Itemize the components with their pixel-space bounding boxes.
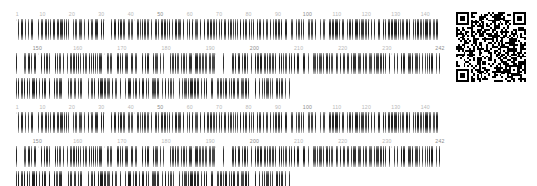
barcode-bar bbox=[120, 112, 122, 133]
barcode-bar bbox=[181, 146, 182, 167]
barcode-bar bbox=[400, 19, 401, 40]
barcode-bar bbox=[259, 171, 260, 186]
barcode-bar bbox=[75, 112, 77, 133]
barcode-bar bbox=[431, 146, 434, 167]
barcode-bar bbox=[192, 112, 193, 133]
barcode-bar bbox=[240, 112, 242, 133]
barcode-bar bbox=[169, 112, 170, 133]
barcode-bar bbox=[289, 146, 290, 167]
barcode-bar bbox=[383, 19, 384, 40]
barcode-bar bbox=[415, 53, 418, 74]
barcode-bar bbox=[27, 171, 28, 186]
barcode-bar bbox=[343, 53, 346, 74]
barcode-bar bbox=[303, 19, 304, 40]
barcode-bar bbox=[114, 19, 116, 40]
barcode-bar bbox=[183, 112, 184, 133]
barcode-bar bbox=[16, 146, 17, 167]
barcode-bar bbox=[267, 53, 268, 74]
barcode-bar bbox=[320, 19, 321, 40]
ruler-labels-bottom: 150160170180190200210220230242 bbox=[16, 137, 440, 146]
barcode-bar bbox=[97, 146, 98, 167]
barcode-bar bbox=[212, 53, 215, 74]
barcode-bar bbox=[413, 19, 414, 40]
barcode-bar bbox=[385, 19, 387, 40]
barcode-bar bbox=[415, 112, 416, 133]
barcode-bar bbox=[279, 146, 280, 167]
ruler-labels-top: 1102030405060708090100110120130140 bbox=[16, 10, 440, 19]
ruler-label: 242 bbox=[435, 44, 444, 53]
barcode-bar bbox=[66, 19, 67, 40]
barcode-bar bbox=[147, 19, 149, 40]
barcode-bar bbox=[216, 19, 217, 40]
barcode-bar bbox=[355, 19, 358, 40]
barcode-bar bbox=[247, 53, 248, 74]
barcode-bar bbox=[283, 53, 284, 74]
barcode-bar bbox=[45, 19, 47, 40]
barcode-bar bbox=[108, 146, 109, 167]
barcode-bar bbox=[147, 146, 150, 167]
barcode-bar bbox=[349, 112, 351, 133]
barcode-bar bbox=[285, 19, 288, 40]
barcode-bar bbox=[228, 112, 229, 133]
barcode-bar bbox=[308, 112, 310, 133]
barcode-bar bbox=[429, 53, 430, 74]
barcode-bar bbox=[253, 19, 254, 40]
barcode-bar bbox=[343, 146, 346, 167]
barcode-bar bbox=[259, 19, 261, 40]
barcode-bar bbox=[336, 146, 337, 167]
barcode-bar bbox=[394, 146, 395, 167]
barcode-bar bbox=[153, 53, 154, 74]
ruler-label: 90 bbox=[275, 103, 281, 112]
barcode-bar bbox=[85, 53, 87, 74]
barcode-bar bbox=[358, 53, 361, 74]
ruler-label: 20 bbox=[69, 10, 75, 19]
barcode-bar bbox=[230, 19, 232, 40]
barcode-bar bbox=[264, 53, 266, 74]
barcode-bar bbox=[161, 112, 163, 133]
barcode-bar bbox=[427, 146, 428, 167]
barcode-bar bbox=[397, 146, 398, 167]
barcode-bar bbox=[95, 19, 98, 40]
barcode-bar bbox=[46, 146, 48, 167]
barcode-bar bbox=[342, 19, 345, 40]
barcode-bar bbox=[133, 171, 134, 186]
barcode-bar bbox=[281, 112, 283, 133]
barcode-bar bbox=[202, 146, 204, 167]
barcode-bar bbox=[409, 112, 411, 133]
barcode-bar bbox=[178, 112, 181, 133]
barcode-bar bbox=[147, 112, 149, 133]
barcode-bar bbox=[167, 112, 168, 133]
barcode-bar bbox=[303, 53, 306, 74]
barcode-bar bbox=[257, 19, 258, 40]
barcode-bar bbox=[311, 112, 313, 133]
barcode-bar bbox=[68, 112, 69, 133]
barcode-bar bbox=[301, 19, 302, 40]
barcode-bar bbox=[415, 19, 416, 40]
barcode-bar bbox=[251, 146, 253, 167]
barcode-bar bbox=[59, 171, 62, 186]
barcode-bar bbox=[73, 53, 76, 74]
barcode-bar bbox=[183, 19, 184, 40]
qr-code bbox=[456, 12, 526, 82]
barcode-bar bbox=[340, 53, 341, 74]
barcode-bar bbox=[247, 146, 248, 167]
barcode-bar bbox=[361, 19, 364, 40]
qr-code-canvas bbox=[456, 12, 526, 82]
barcode-bar bbox=[289, 53, 290, 74]
barcode-bar bbox=[275, 146, 277, 167]
barcode-bar bbox=[46, 53, 48, 74]
barcode-bar bbox=[429, 146, 430, 167]
ruler-labels-top: 1102030405060708090100110120130140 bbox=[16, 103, 440, 112]
barcode-bar bbox=[219, 112, 220, 133]
barcode-bar bbox=[21, 19, 24, 40]
barcode-bar bbox=[49, 53, 50, 74]
barcode-bar bbox=[283, 146, 284, 167]
barcode-bar bbox=[100, 171, 103, 186]
barcode-bar bbox=[332, 19, 334, 40]
barcode-bar bbox=[351, 146, 353, 167]
ruler-label: 200 bbox=[250, 44, 259, 53]
barcode-bar bbox=[255, 53, 256, 74]
barcode-bar bbox=[83, 146, 84, 167]
barcode-bar bbox=[41, 146, 42, 167]
barcode-bar bbox=[162, 171, 163, 186]
